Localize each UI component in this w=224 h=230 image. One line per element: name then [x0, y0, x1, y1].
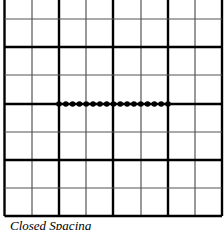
spacing-dot [165, 101, 171, 107]
spacing-dot [145, 101, 151, 107]
spacing-dot [152, 101, 158, 107]
spacing-dot [70, 101, 76, 107]
spacing-dot [124, 101, 130, 107]
figure-caption: Closed Spacing [10, 219, 91, 230]
spacing-dot [97, 101, 103, 107]
spacing-dot [118, 101, 124, 107]
spacing-dot [63, 101, 69, 107]
spacing-dot [158, 101, 164, 107]
spacing-dot [131, 101, 137, 107]
spacing-grid-diagram [0, 0, 224, 230]
spacing-dot [56, 101, 62, 107]
spacing-dot [90, 101, 96, 107]
spacing-dot [104, 101, 110, 107]
spacing-dot [111, 101, 117, 107]
spacing-dot [83, 101, 89, 107]
spacing-dot [138, 101, 144, 107]
spacing-dot [77, 101, 83, 107]
